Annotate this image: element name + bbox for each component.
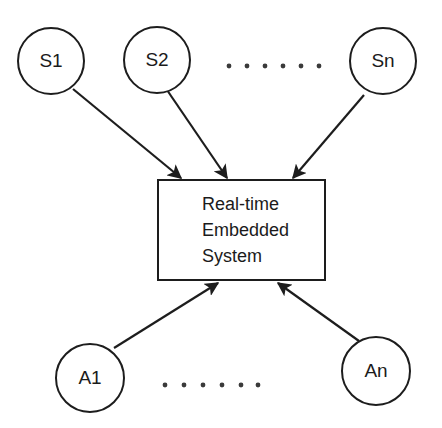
sensor-label-s1: S1 [39, 50, 62, 71]
ellipsis-dot [201, 383, 206, 388]
sensor-label-s2: S2 [145, 49, 168, 70]
ellipsis-dot [263, 64, 268, 69]
ellipsis-dot [182, 383, 187, 388]
edge-a1-to-system [114, 283, 218, 348]
diagram-canvas: Real-time Embedded System S1 S2 Sn A1 An [0, 0, 442, 428]
ellipsis-dot [317, 64, 322, 69]
sensors-ellipsis [227, 64, 322, 69]
ellipsis-dot [256, 383, 261, 388]
edge-s2-to-system [167, 90, 227, 178]
ellipsis-dot [281, 64, 286, 69]
actuator-label-an: An [364, 360, 387, 381]
ellipsis-dot [239, 383, 244, 388]
system-box-line-2: Embedded [202, 220, 289, 240]
edge-an-to-system [278, 283, 359, 341]
ellipsis-dot [299, 64, 304, 69]
ellipsis-dot [245, 64, 250, 69]
system-diagram: Real-time Embedded System S1 S2 Sn A1 An [0, 0, 442, 428]
system-box-line-1: Real-time [202, 194, 279, 214]
actuators-ellipsis [163, 383, 261, 388]
ellipsis-dot [220, 383, 225, 388]
actuator-label-a1: A1 [78, 367, 101, 388]
ellipsis-dot [227, 64, 232, 69]
edge-s1-to-system [73, 89, 181, 178]
ellipsis-dot [163, 383, 168, 388]
edge-sn-to-system [293, 95, 364, 178]
system-box-line-3: System [202, 246, 262, 266]
sensor-label-sn: Sn [371, 50, 394, 71]
